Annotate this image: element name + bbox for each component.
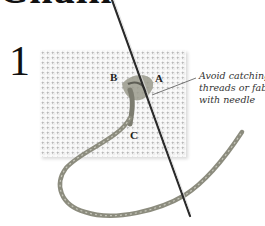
point-a-label: A [155,72,163,84]
annotation-note: Avoid catching threads or fabric with ne… [199,70,265,106]
needle [112,0,190,216]
thread [60,118,242,216]
point-c-label: C [130,129,138,141]
point-b-label: B [110,71,117,83]
stitch-illustration [0,0,265,226]
annotation-line-2: threads or fabric [199,82,265,94]
annotation-line-1: Avoid catching [199,70,265,82]
annotation-line-3: with needle [199,94,265,106]
